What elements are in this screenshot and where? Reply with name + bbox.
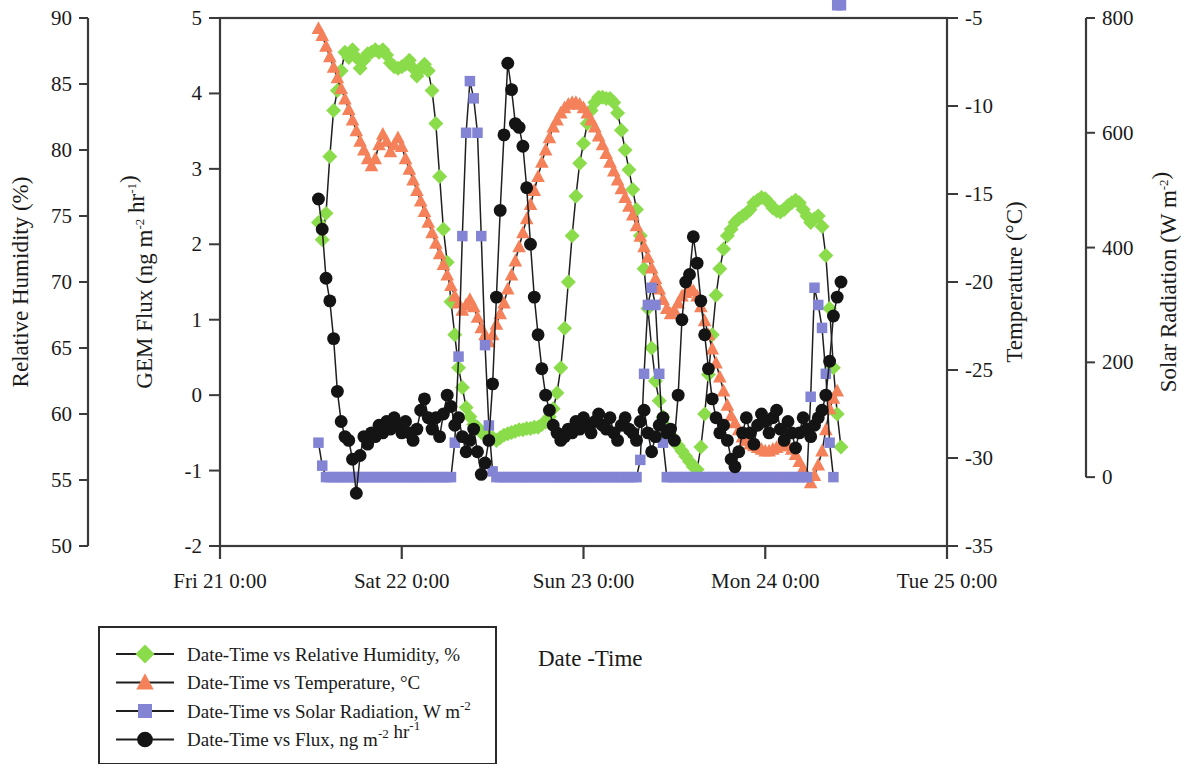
data-point-square: [646, 282, 657, 293]
solar-axis-tick-label: 600: [1102, 121, 1134, 145]
solar-axis-title: Solar Radiation (W m-2): [1148, 172, 1181, 393]
data-point-square: [813, 300, 824, 311]
data-point-circle: [463, 434, 476, 447]
data-point-circle: [729, 460, 742, 473]
data-point-circle: [804, 430, 817, 443]
data-point-circle: [691, 257, 704, 270]
data-point-circle: [539, 389, 552, 402]
data-point-diamond: [618, 143, 633, 158]
data-point-triangle: [717, 384, 731, 397]
data-point-circle: [698, 328, 711, 341]
data-point-circle: [835, 276, 848, 289]
x-tick-label: Fri 21 0:00: [173, 569, 266, 593]
data-point-triangle: [509, 254, 523, 267]
data-point-circle: [516, 140, 529, 153]
data-point-circle: [479, 457, 492, 470]
data-point-triangle: [524, 197, 538, 210]
data-point-triangle: [721, 398, 735, 411]
data-point-triangle: [505, 268, 519, 281]
data-point-circle: [323, 294, 336, 307]
data-point-square: [317, 460, 328, 471]
data-point-circle: [770, 404, 783, 417]
rh-axis-title: Relative Humidity (%): [8, 177, 33, 388]
data-point-circle: [335, 415, 348, 428]
data-point-circle: [831, 291, 844, 304]
data-point-circle: [706, 392, 719, 405]
data-point-square: [809, 282, 820, 293]
legend-label: Date-Time vs Solar Radiation, W m-2: [187, 698, 471, 722]
flux-axis-tick-label: 4: [192, 81, 203, 105]
data-point-circle: [460, 445, 473, 458]
data-point-circle: [320, 272, 333, 285]
data-point-circle: [789, 442, 802, 455]
data-point-square: [138, 704, 152, 718]
data-point-square: [639, 369, 650, 380]
series-flux: [312, 57, 847, 500]
rh-axis-tick-label: 65: [51, 336, 72, 360]
data-point-circle: [687, 230, 700, 243]
data-point-square: [824, 437, 835, 448]
data-point-circle: [433, 430, 446, 443]
data-point-square: [484, 420, 495, 431]
rh-axis-tick-label: 85: [51, 72, 72, 96]
solar-axis-title-text: Solar Radiation (W m-2): [1148, 172, 1181, 393]
data-point-circle: [717, 419, 730, 432]
data-point-triangle: [705, 342, 719, 355]
data-point-circle: [486, 377, 499, 390]
data-point-circle: [452, 411, 465, 424]
solar-axis-tick-label: 0: [1102, 465, 1113, 489]
figure-root: Fri 21 0:00Sat 22 0:00Sun 23 0:00Mon 24 …: [0, 0, 1204, 764]
chart-svg: Fri 21 0:00Sat 22 0:00Sun 23 0:00Mon 24 …: [0, 0, 1204, 764]
solar-axis-tick-label: 200: [1102, 350, 1134, 374]
data-point-circle: [604, 411, 617, 424]
data-point-circle: [467, 423, 480, 436]
x-tick-label: Mon 24 0:00: [711, 569, 820, 593]
data-point-square: [313, 437, 324, 448]
data-point-square: [631, 472, 642, 483]
data-point-triangle: [811, 458, 825, 471]
data-point-diamond: [550, 385, 565, 400]
solar-axis-tick-label: 800: [1102, 6, 1134, 30]
data-point-diamond: [553, 360, 568, 375]
data-point-circle: [354, 449, 367, 462]
data-point-triangle: [539, 143, 553, 156]
data-point-circle: [475, 468, 488, 481]
data-point-circle: [694, 294, 707, 307]
rh-axis-tick-label: 75: [51, 204, 72, 228]
data-point-square: [802, 472, 813, 483]
data-point-diamond: [818, 248, 833, 263]
data-point-triangle: [512, 240, 526, 253]
data-point-circle: [342, 434, 355, 447]
temp-axis-title-text: Temperature (°C): [1002, 201, 1027, 362]
data-point-diamond: [565, 228, 580, 243]
flux-axis-tick-label: 3: [192, 157, 203, 181]
solar-axis: 8006004002000: [1086, 6, 1134, 489]
data-point-circle: [490, 291, 503, 304]
data-point-diamond: [326, 103, 341, 118]
rh-axis-tick-label: 80: [51, 138, 72, 162]
x-axis: Fri 21 0:00Sat 22 0:00Sun 23 0:00Mon 24 …: [173, 546, 997, 593]
data-point-square: [468, 93, 479, 104]
data-point-triangle: [501, 282, 515, 295]
data-point-square: [817, 323, 828, 334]
data-point-square: [461, 128, 472, 139]
data-point-circle: [535, 362, 548, 375]
data-point-circle: [520, 181, 533, 194]
rh-axis-tick-label: 90: [51, 6, 72, 30]
flux-axis-tick-label: 5: [192, 6, 203, 30]
data-point-circle: [630, 434, 643, 447]
data-point-circle: [683, 268, 696, 281]
rh-axis-tick-label: 70: [51, 270, 72, 294]
data-point-square: [650, 300, 661, 311]
temp-axis-tick-label: -30: [965, 446, 993, 470]
data-point-diamond: [568, 189, 583, 204]
data-point-diamond: [322, 149, 337, 164]
data-point-diamond: [614, 123, 629, 138]
data-point-square: [805, 392, 816, 403]
data-point-circle: [732, 445, 745, 458]
temp-axis-tick-label: -35: [965, 534, 993, 558]
data-point-diamond: [652, 393, 667, 408]
data-point-diamond: [621, 162, 636, 177]
data-point-circle: [823, 355, 836, 368]
data-point-circle: [649, 430, 662, 443]
